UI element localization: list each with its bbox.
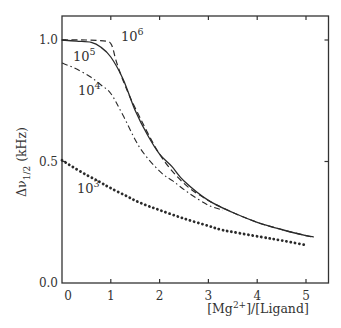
curve-label-10-4: 104 (78, 80, 101, 98)
plot-frame (62, 16, 329, 283)
curve-dashed-6 (62, 40, 313, 237)
x-tick-label: 2 (156, 289, 164, 303)
curve-labels: 106105104103 (73, 26, 144, 196)
curve-dotted-3 (62, 160, 307, 245)
y-axis-title: Δν1/2 (kHz) (14, 127, 32, 197)
curves (62, 40, 313, 245)
chart: 012345 0.00.51.0 106105104103 [Mg2+]/[Li… (0, 0, 341, 328)
x-axis-ticks: 012345 (64, 16, 310, 303)
y-tick-label: 1.0 (39, 33, 58, 47)
plot-border (62, 16, 329, 283)
x-tick-label: 1 (107, 289, 115, 303)
y-axis-ticks: 0.00.51.0 (39, 33, 329, 290)
y-tick-label: 0.0 (39, 276, 58, 290)
curve-solid-5 (62, 40, 313, 237)
x-tick-label: 0 (64, 289, 72, 303)
curve-label-10-6: 106 (121, 26, 144, 44)
curve-label-10-3: 103 (77, 178, 100, 196)
y-tick-label: 0.5 (39, 155, 58, 169)
curve-label-10-5: 105 (73, 46, 96, 64)
x-axis-title: [Mg2+]/[Ligand] (207, 300, 309, 316)
